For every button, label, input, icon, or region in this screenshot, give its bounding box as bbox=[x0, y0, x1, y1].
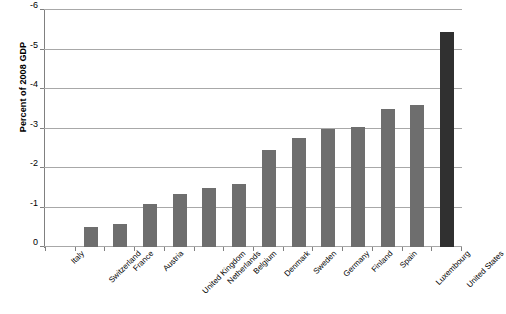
x-axis-label: Denmark bbox=[282, 249, 311, 278]
x-axis-label: Finland bbox=[370, 249, 395, 274]
bar bbox=[202, 188, 216, 247]
y-axis-tick-label: -1 bbox=[30, 198, 38, 208]
bar bbox=[262, 150, 276, 247]
y-axis-tick bbox=[40, 9, 44, 10]
bar bbox=[232, 184, 246, 247]
y-axis-tick-label: -5 bbox=[30, 40, 38, 50]
x-axis-label: Sweden bbox=[311, 249, 338, 276]
bar bbox=[440, 32, 454, 247]
y-axis-tick bbox=[40, 246, 44, 247]
y-axis-title: Percent of 2008 GDP bbox=[18, 12, 28, 162]
y-axis-tick bbox=[40, 207, 44, 208]
x-axis-label: Austria bbox=[161, 249, 185, 273]
bar bbox=[84, 227, 98, 247]
x-axis-label: Germany bbox=[342, 249, 372, 279]
bar bbox=[410, 105, 424, 247]
y-axis-tick-label: -6 bbox=[30, 0, 38, 10]
bar bbox=[113, 224, 127, 247]
bar bbox=[143, 204, 157, 247]
y-axis-tick bbox=[40, 49, 44, 50]
y-axis-tick bbox=[40, 128, 44, 129]
x-axis-label: Spain bbox=[398, 249, 419, 270]
x-axis-labels: ItalySwitzerlandFranceAustriaUnited King… bbox=[44, 249, 464, 314]
bars-group bbox=[45, 10, 462, 247]
bar bbox=[351, 127, 365, 247]
y-axis-tick-label: -4 bbox=[30, 79, 38, 89]
bar bbox=[321, 129, 335, 248]
plot-area: 0-1-2-3-4-5-6 bbox=[44, 10, 462, 247]
bar bbox=[292, 138, 306, 247]
bar bbox=[381, 109, 395, 247]
bar bbox=[173, 194, 187, 247]
x-axis-label: Italy bbox=[69, 249, 86, 266]
y-axis-tick-label: 0 bbox=[33, 237, 38, 247]
y-axis-tick-label: -2 bbox=[30, 158, 38, 168]
y-axis-tick bbox=[40, 167, 44, 168]
y-axis-tick-label: -3 bbox=[30, 119, 38, 129]
y-axis-tick bbox=[40, 88, 44, 89]
